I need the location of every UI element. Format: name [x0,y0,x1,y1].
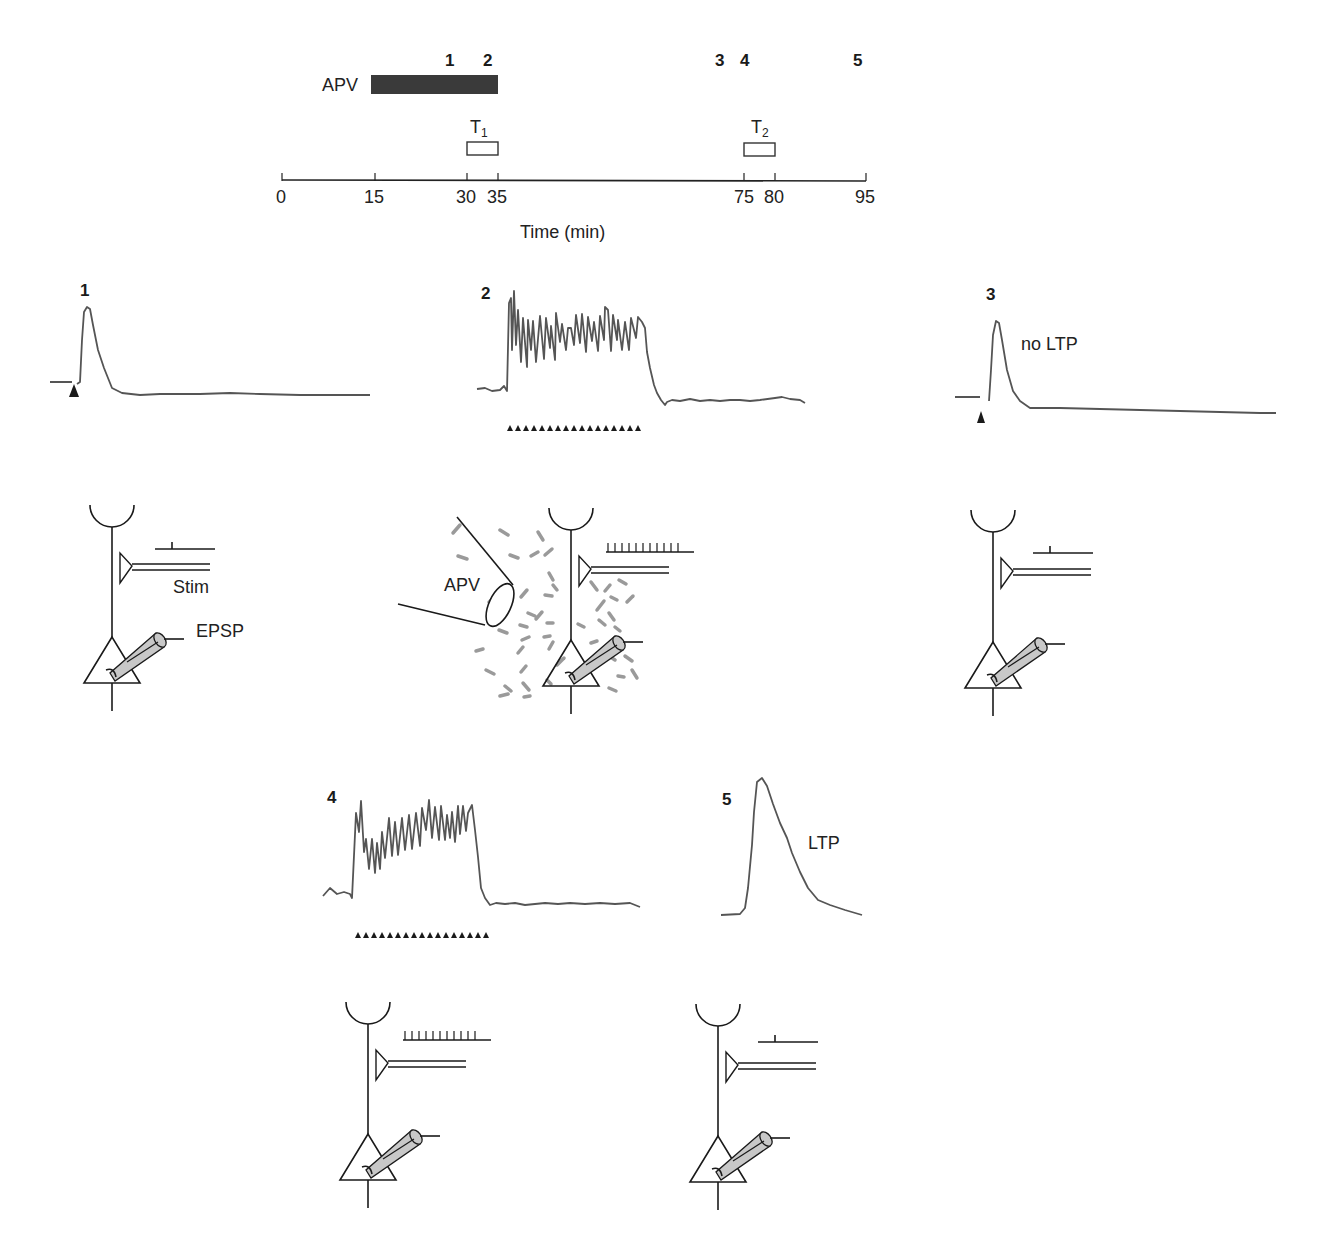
stim-train-arrows-icon [355,932,489,938]
panel-4-tetanus-trace [323,800,640,938]
panel-1-neuron-diagram [84,505,215,711]
panel-4-neuron-diagram [340,1002,491,1208]
panel-2-tetanus-trace [477,291,805,431]
apv-pipette-tip [480,580,519,631]
panel-5-neuron-diagram [690,1004,818,1210]
stim-train-arrows-icon [507,425,641,431]
panel-1-epsp-trace [50,307,370,397]
panel-2-neuron-diagram [398,508,694,714]
stim-arrow-icon [69,384,79,397]
figure-drawings [0,0,1327,1242]
panel-5-ltp-trace [721,778,862,915]
panel-3-epsp-trace [955,321,1276,423]
stim-arrow-icon [977,411,985,423]
apv-particles [453,525,637,697]
panel-3-neuron-diagram [965,510,1093,716]
